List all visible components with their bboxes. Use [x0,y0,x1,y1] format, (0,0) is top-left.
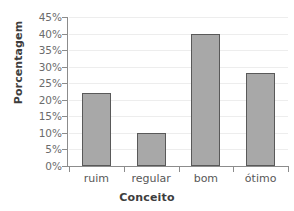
y-axis-title: Porcentagem [12,3,25,123]
y-tick-mark [62,116,68,117]
y-tick-label: 35% [26,45,62,56]
y-tick-mark [62,34,68,35]
bar-ruim[interactable] [82,93,111,166]
x-tick-mark [124,167,125,172]
y-tick-mark [62,166,68,167]
plot-area [69,17,288,166]
y-tick-mark [62,50,68,51]
y-tick-mark [62,100,68,101]
x-axis-title: Conceito [0,191,294,204]
y-tick-mark [62,133,68,134]
y-tick-label: 20% [26,94,62,105]
y-tick-label: 25% [26,78,62,89]
x-tick-mark [233,167,234,172]
y-tick-label: 45% [26,12,62,23]
y-tick-label: 40% [26,28,62,39]
y-tick-mark [62,17,68,18]
y-tick-label: 0% [26,161,62,172]
bar-bom[interactable] [191,34,220,166]
gridline [69,50,288,51]
y-axis-line [67,17,68,167]
x-tick-mark [69,167,70,172]
gridline [69,34,288,35]
x-category-label-ótimo: ótimo [245,172,277,185]
bar-regular[interactable] [137,133,166,166]
bar-chart: Porcentagem 0%5%10%15%20%25%30%35%40%45%… [0,0,294,211]
y-axis-tick-labels: 0%5%10%15%20%25%30%35%40%45% [26,11,62,167]
bar-ótimo[interactable] [246,73,275,166]
y-tick-mark [62,83,68,84]
y-tick-label: 15% [26,111,62,122]
gridline [69,67,288,68]
x-tick-mark [288,167,289,172]
x-category-label-regular: regular [131,172,170,185]
x-category-label-bom: bom [194,172,218,185]
y-tick-label: 5% [26,144,62,155]
gridline [69,17,288,18]
y-tick-label: 10% [26,127,62,138]
x-tick-mark [179,167,180,172]
y-tick-label: 30% [26,61,62,72]
x-category-label-ruim: ruim [84,172,109,185]
y-tick-mark [62,149,68,150]
y-tick-mark [62,67,68,68]
